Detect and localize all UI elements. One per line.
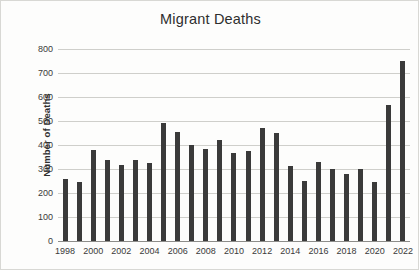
- x-slot-2020: 2020: [368, 244, 382, 262]
- x-slot-2010: 2010: [227, 244, 241, 262]
- chart-title: Migrant Deaths: [1, 11, 419, 27]
- gridline-0: [58, 241, 410, 242]
- bar-slot-2004: [142, 49, 156, 241]
- x-tick-label-2022: 2022: [393, 246, 413, 256]
- bar-slot-1998: [58, 49, 72, 241]
- bar-slot-2019: [354, 49, 368, 241]
- bar-2015[interactable]: [302, 181, 307, 241]
- bar-2013[interactable]: [274, 133, 279, 241]
- y-tick-label-700: 700: [7, 68, 53, 78]
- bar-slot-2012: [255, 49, 269, 241]
- bar-2014[interactable]: [288, 166, 293, 241]
- bar-1998[interactable]: [63, 179, 68, 241]
- bar-slot-2009: [213, 49, 227, 241]
- bar-2002[interactable]: [119, 165, 124, 241]
- bar-2000[interactable]: [91, 150, 96, 241]
- bar-slot-2021: [382, 49, 396, 241]
- bar-slot-2010: [227, 49, 241, 241]
- bar-slot-2015: [297, 49, 311, 241]
- bars-series: [58, 49, 410, 241]
- bar-2010[interactable]: [231, 153, 236, 241]
- x-axis-tick-labels: 1998200020022004200620082010201220142016…: [58, 244, 410, 262]
- bar-2004[interactable]: [147, 163, 152, 241]
- bar-2020[interactable]: [372, 182, 377, 241]
- x-slot-2016: 2016: [311, 244, 325, 262]
- bar-2012[interactable]: [260, 128, 265, 241]
- migrant-deaths-bar-chart: Migrant Deaths Number of Deaths 80070060…: [0, 0, 419, 270]
- x-slot-2004: 2004: [142, 244, 156, 262]
- bar-slot-2011: [241, 49, 255, 241]
- bar-slot-2003: [128, 49, 142, 241]
- bar-2001[interactable]: [105, 160, 110, 241]
- y-tick-label-600: 600: [7, 92, 53, 102]
- x-slot-2022: 2022: [396, 244, 410, 262]
- bar-2009[interactable]: [217, 140, 222, 241]
- bar-slot-1999: [72, 49, 86, 241]
- bar-2003[interactable]: [133, 160, 138, 241]
- bar-slot-2007: [185, 49, 199, 241]
- bar-slot-2002: [114, 49, 128, 241]
- x-slot-2006: 2006: [171, 244, 185, 262]
- bar-2019[interactable]: [358, 169, 363, 241]
- x-slot-2000: 2000: [86, 244, 100, 262]
- bar-2007[interactable]: [189, 145, 194, 241]
- plot-area: [58, 49, 410, 241]
- y-tick-label-100: 100: [7, 212, 53, 222]
- y-tick-label-200: 200: [7, 188, 53, 198]
- bar-slot-2006: [171, 49, 185, 241]
- bar-slot-2017: [325, 49, 339, 241]
- bar-2017[interactable]: [330, 169, 335, 241]
- x-slot-1998: 1998: [58, 244, 72, 262]
- x-slot-2008: 2008: [199, 244, 213, 262]
- x-slot-2018: 2018: [340, 244, 354, 262]
- bar-1999[interactable]: [77, 182, 82, 241]
- bar-2018[interactable]: [344, 174, 349, 241]
- x-slot-2012: 2012: [255, 244, 269, 262]
- x-slot-2014: 2014: [283, 244, 297, 262]
- bar-slot-2001: [100, 49, 114, 241]
- bar-slot-2020: [368, 49, 382, 241]
- bar-2022[interactable]: [400, 61, 405, 241]
- bar-slot-2018: [340, 49, 354, 241]
- x-slot-2002: 2002: [114, 244, 128, 262]
- y-axis-tick-labels: 8007006005004003002001000: [1, 49, 53, 241]
- bar-slot-2005: [157, 49, 171, 241]
- bar-slot-2014: [283, 49, 297, 241]
- bar-2021[interactable]: [386, 105, 391, 241]
- bar-2011[interactable]: [246, 151, 251, 241]
- bar-2008[interactable]: [203, 149, 208, 241]
- bar-2005[interactable]: [161, 123, 166, 241]
- y-tick-label-0: 0: [7, 236, 53, 246]
- bar-slot-2022: [396, 49, 410, 241]
- bar-2016[interactable]: [316, 162, 321, 241]
- bar-slot-2008: [199, 49, 213, 241]
- y-tick-label-400: 400: [7, 140, 53, 150]
- y-tick-label-300: 300: [7, 164, 53, 174]
- bar-slot-2000: [86, 49, 100, 241]
- y-tick-label-800: 800: [7, 44, 53, 54]
- bar-slot-2013: [269, 49, 283, 241]
- y-tick-label-500: 500: [7, 116, 53, 126]
- bar-slot-2016: [311, 49, 325, 241]
- bar-2006[interactable]: [175, 132, 180, 241]
